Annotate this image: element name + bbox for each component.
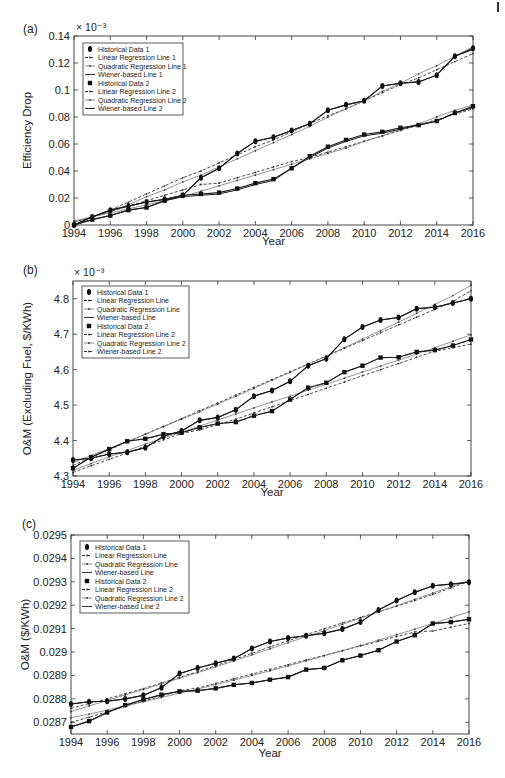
y-tick-label: 0 [64, 219, 70, 231]
diamond-marker [107, 451, 111, 457]
point-marker [217, 403, 219, 405]
x-tick-label: 2010 [352, 227, 376, 239]
figure-canvas: (a)× 10⁻³1994199619982000200220042006200… [0, 0, 505, 778]
diamond-marker [360, 324, 364, 330]
square-marker [394, 639, 398, 643]
point-marker [88, 705, 90, 707]
square-marker [89, 455, 93, 459]
point-marker [289, 372, 291, 374]
legend-swatch-dot [86, 589, 88, 591]
diamond-marker [380, 83, 384, 89]
y-multiplier-label: × 10⁻³ [74, 266, 105, 278]
legend-entry-label: Historical Data 1 [98, 46, 149, 53]
diamond-marker [344, 102, 348, 108]
diamond-marker [304, 633, 308, 639]
y-tick-label: 0.0291 [33, 623, 67, 635]
point-marker [164, 185, 166, 187]
x-tick-label: 2010 [350, 478, 374, 490]
diamond-marker [395, 598, 399, 604]
x-tick-label: 2014 [424, 227, 448, 239]
square-marker [126, 208, 130, 212]
square-marker [378, 355, 382, 359]
point-marker [323, 628, 325, 630]
point-marker [454, 61, 456, 63]
diamond-marker [308, 121, 312, 127]
panel-label: (a) [23, 22, 38, 36]
diamond-marker [105, 698, 109, 704]
square-marker [214, 686, 218, 690]
legend-entry-label: Historical Data 2 [95, 578, 146, 585]
x-tick-label: 2016 [461, 227, 485, 239]
x-axis-title: Year [262, 235, 285, 247]
square-marker [199, 192, 203, 196]
square-marker [435, 119, 439, 123]
square-marker [234, 420, 238, 424]
point-marker [362, 338, 364, 340]
diamond-marker [431, 583, 435, 589]
y-tick-label: 0.0295 [33, 529, 67, 541]
legend-entry-label: Historical Data 1 [95, 544, 146, 551]
diamond-marker [214, 660, 218, 666]
point-marker [179, 677, 181, 679]
y-tick-label: 0.0289 [33, 669, 67, 681]
point-marker [271, 401, 273, 403]
point-marker [380, 369, 382, 371]
legend-swatch-dot [89, 99, 91, 101]
point-marker [452, 340, 454, 342]
point-marker [360, 617, 362, 619]
series-linear-regression-line-2 [70, 623, 470, 724]
square-marker [396, 355, 400, 359]
point-marker [233, 679, 235, 681]
diamond-marker [88, 46, 92, 52]
square-marker [235, 186, 239, 190]
panel-label: (b) [23, 263, 38, 277]
square-marker [271, 177, 275, 181]
square-marker [270, 409, 274, 413]
point-marker [236, 180, 238, 182]
point-marker [182, 189, 184, 191]
y-tick-label: 4.3 [54, 470, 69, 482]
diamond-marker [199, 175, 203, 181]
legend-entry-label: Quadratic Regression Line [97, 306, 180, 314]
point-marker [72, 472, 74, 474]
diamond-marker [250, 646, 254, 652]
square-marker [85, 579, 89, 583]
diamond-marker [358, 619, 362, 625]
point-marker [341, 624, 343, 626]
point-marker [360, 645, 362, 647]
diamond-marker [306, 363, 310, 369]
square-marker [344, 138, 348, 142]
square-marker [431, 621, 435, 625]
series-quadratic-regression-line-2 [73, 104, 474, 222]
legend-entry-label: Linear Regression Line 2 [98, 88, 176, 96]
point-marker [436, 65, 438, 67]
point-marker [327, 153, 329, 155]
x-tick-label: 2000 [171, 227, 195, 239]
point-marker [343, 381, 345, 383]
square-marker [87, 324, 91, 328]
point-marker [468, 623, 470, 625]
diamond-marker [71, 457, 75, 463]
y-tick-label: 0.0293 [33, 576, 67, 588]
legend-swatch-dot [89, 65, 91, 67]
point-marker [88, 716, 90, 718]
legend-entry-label: Wiener-based Line 2 [98, 105, 163, 112]
point-marker [90, 463, 92, 465]
diamond-marker [378, 317, 382, 323]
point-marker [380, 332, 382, 334]
series-line [73, 344, 471, 472]
x-tick-label: 2010 [348, 736, 372, 748]
square-marker [159, 692, 163, 696]
x-tick-label: 1998 [131, 736, 155, 748]
diamond-marker [144, 199, 148, 205]
square-marker [398, 126, 402, 130]
y-axis-title: O&M (Excluding Fuel, $/KWh) [21, 302, 33, 456]
point-marker [307, 394, 309, 396]
legend-entry-label: Linear Regression Line 2 [97, 331, 175, 339]
x-tick-label: 2016 [459, 478, 483, 490]
series-line [71, 623, 469, 722]
square-marker [143, 437, 147, 441]
point-marker [325, 387, 327, 389]
point-marker [197, 672, 199, 674]
square-marker [125, 439, 129, 443]
